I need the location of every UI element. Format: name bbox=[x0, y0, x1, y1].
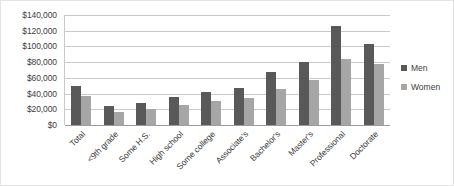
bar-group bbox=[65, 15, 98, 125]
bar-group bbox=[260, 15, 293, 125]
bar-women bbox=[179, 105, 189, 125]
bar-group bbox=[293, 15, 326, 125]
y-axis-tick-label: $20,000 bbox=[27, 104, 57, 114]
legend-swatch-icon bbox=[401, 65, 407, 71]
plot-area bbox=[64, 15, 390, 125]
bar-women bbox=[374, 64, 384, 125]
bar-men bbox=[364, 44, 374, 125]
x-axis-label-slot: Bachelor's bbox=[259, 125, 292, 186]
bar-men bbox=[71, 86, 81, 125]
bar-men bbox=[234, 88, 244, 125]
bar-group bbox=[130, 15, 163, 125]
bar-women bbox=[114, 112, 124, 125]
x-axis-tick-label: Total bbox=[68, 129, 87, 148]
y-axis-tick-label: $100,000 bbox=[22, 41, 57, 51]
bar-group bbox=[163, 15, 196, 125]
y-axis-tick-label: $60,000 bbox=[27, 73, 57, 83]
legend-item-men[interactable]: Men bbox=[401, 63, 440, 73]
bar-chart-figure: $140,000$120,000$100,000$80,000$60,000$4… bbox=[0, 0, 454, 186]
bar-group bbox=[195, 15, 228, 125]
legend-item-women[interactable]: Women bbox=[401, 82, 440, 92]
bar-men bbox=[201, 92, 211, 125]
chart-legend: MenWomen bbox=[401, 63, 440, 92]
bar-women bbox=[276, 89, 286, 125]
bar-group bbox=[228, 15, 261, 125]
bar-women bbox=[81, 96, 91, 125]
y-axis-tick-label: $0 bbox=[48, 120, 57, 130]
bar-women bbox=[211, 101, 221, 125]
bar-group bbox=[325, 15, 358, 125]
legend-label: Men bbox=[411, 63, 428, 73]
bar-men bbox=[136, 103, 146, 125]
bar-men bbox=[331, 26, 341, 125]
legend-label: Women bbox=[411, 82, 440, 92]
y-axis-tick-label: $40,000 bbox=[27, 89, 57, 99]
bar-men bbox=[266, 72, 276, 125]
bar-women bbox=[146, 109, 156, 125]
bar-women bbox=[309, 80, 319, 125]
bar-women bbox=[244, 98, 254, 125]
bar-group bbox=[358, 15, 391, 125]
bar-men bbox=[299, 62, 309, 125]
y-axis: $140,000$120,000$100,000$80,000$60,000$4… bbox=[1, 15, 61, 125]
legend-swatch-icon bbox=[401, 84, 407, 90]
bar-men bbox=[104, 106, 114, 125]
bar-groups bbox=[65, 15, 390, 125]
x-axis-label-slot: Doctorate bbox=[357, 125, 390, 186]
bar-men bbox=[169, 97, 179, 125]
x-axis-labels: Total<9th gradeSome H.S.High schoolSome … bbox=[64, 125, 389, 186]
bar-group bbox=[98, 15, 131, 125]
y-axis-tick-label: $80,000 bbox=[27, 57, 57, 67]
y-axis-tick-label: $140,000 bbox=[22, 10, 57, 20]
bar-women bbox=[341, 59, 351, 125]
y-axis-tick-label: $120,000 bbox=[22, 26, 57, 36]
